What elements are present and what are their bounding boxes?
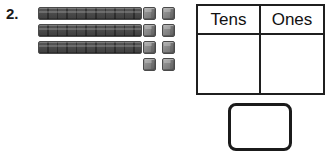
unit-cube-icon — [143, 41, 156, 54]
unit-cube-icon — [162, 24, 175, 37]
worksheet-page: 2. Tens Ones — [0, 0, 334, 168]
ten-rod-icon — [38, 24, 142, 37]
ten-rod-icon — [38, 41, 142, 54]
column-header-tens: Tens — [198, 6, 261, 33]
unit-cube-icon — [162, 41, 175, 54]
unit-cube-icon — [143, 7, 156, 20]
total-answer-box[interactable] — [228, 103, 292, 151]
unit-cube-icon — [143, 24, 156, 37]
base-ten-blocks-group — [38, 5, 188, 77]
table-row — [198, 35, 323, 93]
table-header-row: Tens Ones — [198, 6, 323, 35]
place-value-table: Tens Ones — [196, 4, 325, 95]
unit-cube-icon — [162, 7, 175, 20]
column-header-ones: Ones — [261, 6, 323, 33]
tens-answer-field[interactable] — [198, 35, 261, 93]
unit-cube-icon — [143, 58, 156, 71]
ten-rod-icon — [38, 7, 142, 20]
ones-answer-field[interactable] — [261, 35, 323, 93]
problem-number: 2. — [6, 6, 19, 22]
unit-cube-icon — [162, 58, 175, 71]
